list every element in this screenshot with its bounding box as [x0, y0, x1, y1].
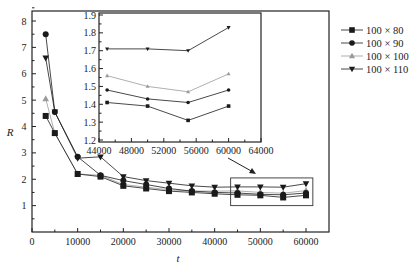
inset-y-tick-label: 1.3 — [84, 117, 97, 128]
y-tick-label: 7 — [22, 42, 27, 53]
inset-x-tick-label: 64000 — [249, 145, 274, 156]
square-marker — [75, 171, 81, 177]
x-axis-label: t — [176, 252, 180, 264]
legend-label: 100 × 110 — [366, 64, 408, 75]
y-tick-label: 3 — [22, 147, 27, 158]
square-marker — [105, 101, 109, 105]
inset-y-tick-label: 1.8 — [84, 27, 97, 38]
triangle-down-marker — [234, 184, 241, 190]
triangle-down-marker — [42, 56, 49, 62]
triangle-up-marker — [42, 95, 49, 101]
inset-x-tick-label: 60000 — [216, 145, 241, 156]
inset-x-tick-label: 52000 — [151, 145, 176, 156]
x-tick-label: 40000 — [202, 236, 227, 247]
square-marker — [120, 183, 126, 189]
inset-y-tick-label: 1.4 — [84, 99, 97, 110]
square-marker — [43, 113, 49, 119]
legend-item: 100 × 80 — [341, 25, 403, 36]
circle-marker — [257, 191, 263, 197]
x-tick-label: 20000 — [111, 236, 136, 247]
triangle-down-marker — [280, 185, 287, 191]
circle-marker — [303, 190, 309, 196]
y-tick-label: 2 — [22, 174, 27, 185]
circle-marker — [349, 40, 355, 46]
circle-marker — [105, 88, 109, 92]
legend-label: 100 × 90 — [366, 38, 403, 49]
zoom-box — [231, 178, 313, 206]
inset-y-tick-label: 1.7 — [84, 45, 97, 56]
arrow-line — [228, 158, 253, 172]
x-tick-label: 60000 — [294, 236, 319, 247]
triangle-up-marker — [349, 53, 355, 59]
inset-x-tick-label: 48000 — [119, 145, 144, 156]
inset-x-tick-label: 56000 — [184, 145, 209, 156]
x-tick-label: 50000 — [248, 236, 273, 247]
circle-marker — [146, 97, 150, 101]
y-tick-label: 4 — [22, 121, 27, 132]
triangle-down-marker — [211, 185, 218, 191]
y-tick-label: 8 — [22, 16, 27, 27]
circle-marker — [186, 101, 190, 105]
arrow-head — [249, 168, 256, 174]
legend-label: 100 × 80 — [366, 25, 403, 36]
x-tick-label: 30000 — [157, 236, 182, 247]
x-tick-label: 0 — [30, 236, 35, 247]
square-marker — [227, 104, 231, 108]
legend-label: 100 × 100 — [366, 51, 409, 62]
y-axis-label: R — [6, 126, 14, 138]
triangle-down-marker — [189, 183, 196, 189]
inset-y-tick-label: 1.9 — [84, 10, 97, 21]
circle-marker — [227, 88, 231, 92]
legend-item: 100 × 100 — [341, 51, 409, 62]
y-tick-label: 5 — [22, 95, 27, 106]
inset-frame — [99, 13, 261, 142]
inset-y-tick-label: 1.5 — [84, 81, 97, 92]
y-tick-label: 1 — [22, 200, 27, 211]
triangle-down-marker — [349, 67, 355, 73]
circle-marker — [43, 31, 49, 37]
circle-marker — [98, 172, 104, 178]
line-chart: 010000200003000040000500006000012345678 … — [0, 0, 414, 267]
inset-y-tick-label: 1.6 — [84, 63, 97, 74]
square-marker — [146, 104, 150, 108]
x-tick-label: 10000 — [65, 236, 90, 247]
circle-marker — [235, 190, 241, 196]
legend: 100 × 80100 × 90100 × 100100 × 110 — [341, 25, 409, 75]
y-tick-label: 6 — [22, 68, 27, 79]
legend-item: 100 × 90 — [341, 38, 403, 49]
circle-marker — [280, 192, 286, 198]
inset-y-tick-label: 1.2 — [84, 135, 97, 146]
square-marker — [186, 119, 190, 123]
inset-plot: 4400048000520005600060000640001.21.31.41… — [84, 10, 274, 157]
square-marker — [52, 130, 58, 136]
inset-x-tick-label: 44000 — [87, 145, 112, 156]
triangle-down-marker — [257, 184, 264, 190]
square-marker — [349, 27, 355, 33]
legend-item: 100 × 110 — [341, 64, 408, 75]
